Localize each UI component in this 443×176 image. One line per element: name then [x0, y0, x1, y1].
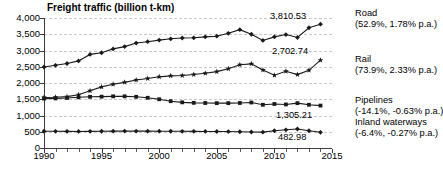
legend-sub-rail: (73.9%, 2.33% p.a.)	[355, 65, 437, 76]
value-label-rail: 2,702.74	[272, 46, 308, 56]
legend-label-pipelines: Pipelines	[355, 95, 443, 106]
value-label-inland-waterways: 482.98	[278, 132, 306, 142]
value-label-road: 3,810.53	[270, 11, 306, 21]
value-label-pipelines: 1,305.21	[276, 110, 312, 120]
legend-item-pipelines: Pipelines (-14.1%, -0.63% p.a.)	[355, 95, 443, 116]
legend-item-road: Road (52.9%, 1.78% p.a.)	[355, 8, 437, 29]
legend-sub-road: (52.9%, 1.78% p.a.)	[355, 19, 437, 30]
legend-item-rail: Rail (73.9%, 2.33% p.a.)	[355, 54, 437, 75]
legend-item-inland-waterways: Inland waterways (-6.4%, -0.27% p.a.)	[355, 117, 438, 138]
series-rail	[41, 57, 323, 100]
legend-label-rail: Rail	[355, 54, 437, 65]
legend-sub-inland-waterways: (-6.4%, -0.27% p.a.)	[355, 128, 438, 139]
legend-sub-pipelines: (-14.1%, -0.63% p.a.)	[355, 106, 443, 117]
legend-label-road: Road	[355, 8, 437, 19]
legend-label-inland-waterways: Inland waterways	[355, 117, 438, 128]
series-pipelines	[42, 94, 322, 107]
